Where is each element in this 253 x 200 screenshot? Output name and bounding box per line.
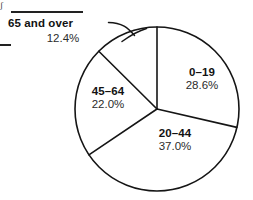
pie-chart-figure: ʃ 0–19 28.6% 20–44 37.0% 45–64 22.0% 65 … bbox=[0, 0, 253, 200]
slice-label-65-and-over: 65 and over 12.4% bbox=[8, 17, 112, 44]
slice-label-45-64: 45–64 22.0% bbox=[75, 85, 141, 111]
slice-label-0-19-percent: 28.6% bbox=[171, 79, 233, 91]
slice-label-0-19: 0–19 28.6% bbox=[171, 66, 233, 92]
slice-label-20-44-category: 20–44 bbox=[141, 127, 209, 139]
slice-label-0-19-category: 0–19 bbox=[171, 66, 233, 78]
slice-label-45-64-percent: 22.0% bbox=[75, 98, 141, 110]
slice-label-65-and-over-category: 65 and over bbox=[8, 17, 112, 29]
slice-label-45-64-category: 45–64 bbox=[75, 85, 141, 97]
slice-label-20-44: 20–44 37.0% bbox=[141, 127, 209, 153]
slice-label-65-and-over-percent: 12.4% bbox=[8, 32, 112, 44]
slice-label-20-44-percent: 37.0% bbox=[141, 140, 209, 152]
